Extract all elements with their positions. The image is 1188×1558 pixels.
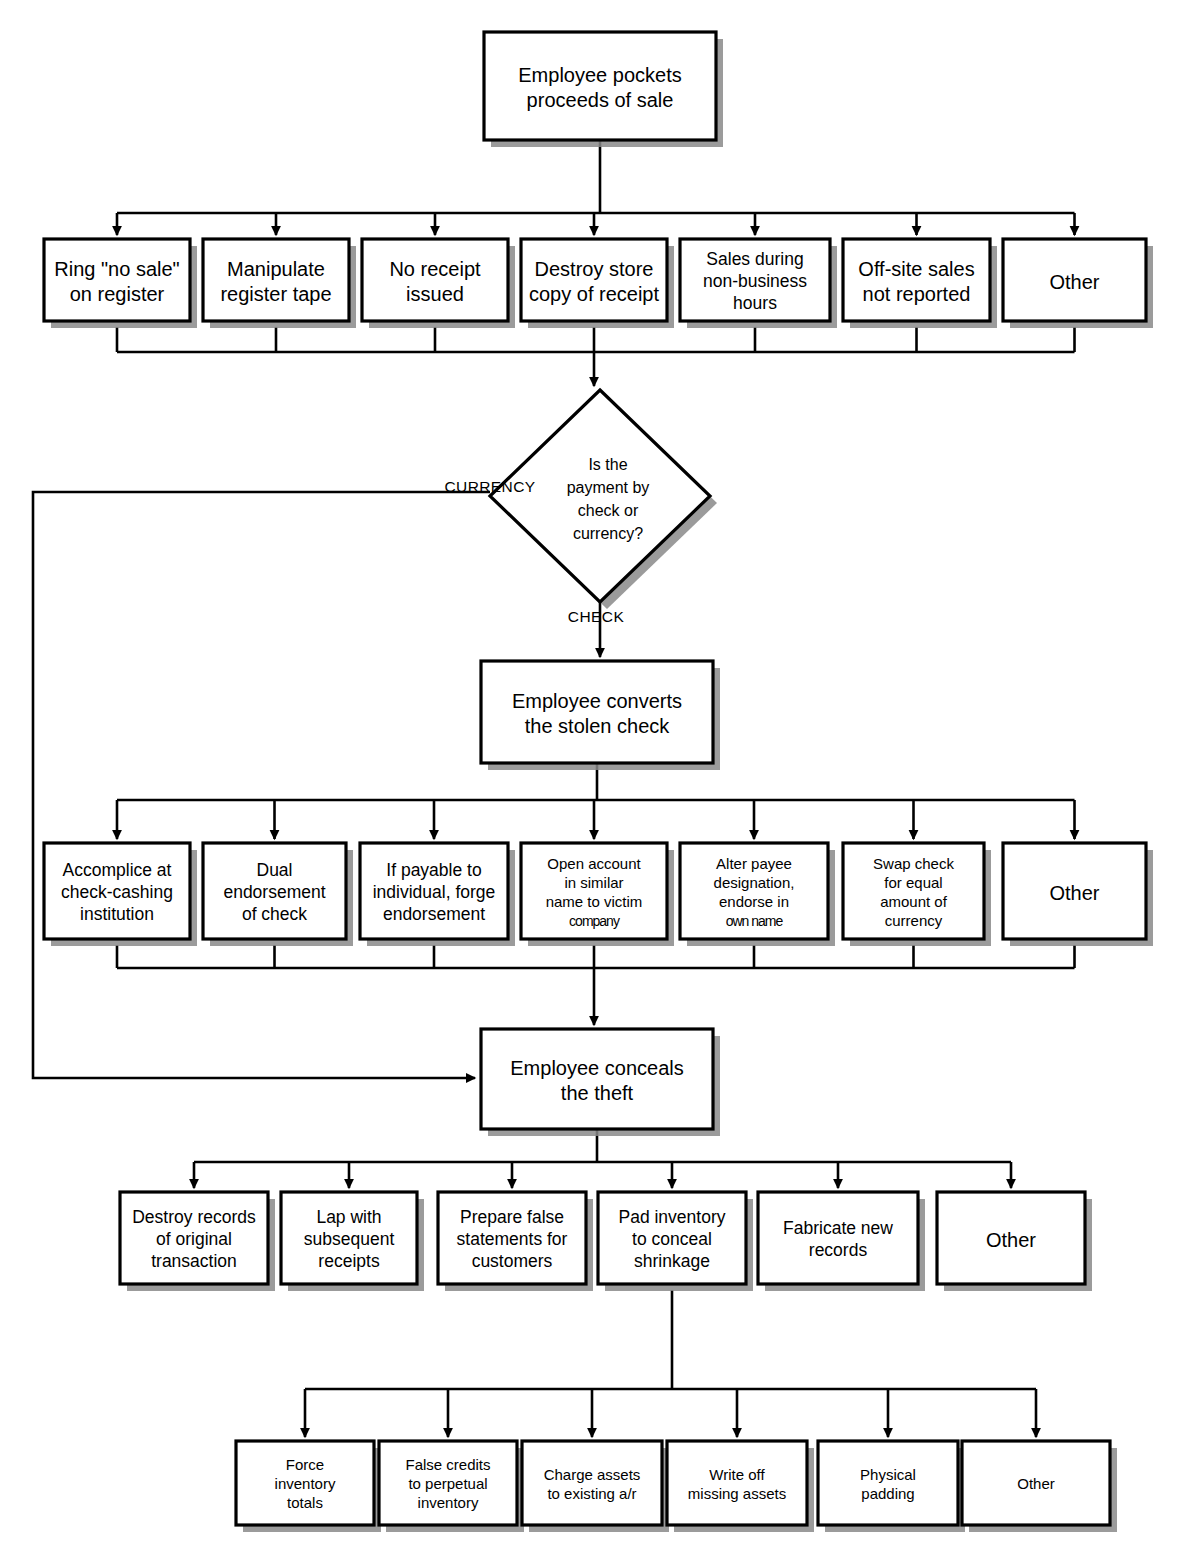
box-label-line: Dual bbox=[257, 860, 293, 880]
node-decision[interactable]: Is thepayment bycheck orcurrency? bbox=[490, 390, 717, 609]
node-convert[interactable]: Employee convertsthe stolen check bbox=[481, 661, 720, 770]
box-frame bbox=[44, 239, 190, 321]
edge-label-currency: CURRENCY bbox=[444, 478, 535, 495]
node-concealment-3[interactable]: Pad inventoryto concealshrinkage bbox=[598, 1192, 753, 1291]
node-conversion-4[interactable]: Alter payeedesignation,endorse inown nam… bbox=[680, 843, 835, 946]
box-label-line: copy of receipt bbox=[529, 283, 660, 305]
node-skimming-2[interactable]: No receiptissued bbox=[362, 239, 515, 328]
edge-label-check: CHECK bbox=[568, 608, 625, 625]
box-label-line: company bbox=[569, 913, 620, 929]
box-frame bbox=[667, 1441, 807, 1525]
node-padding-2[interactable]: Charge assetsto existing a/r bbox=[522, 1441, 669, 1532]
box-frame bbox=[843, 239, 990, 321]
box-label-line: No receipt bbox=[389, 258, 481, 280]
box-label-line: customers bbox=[472, 1251, 553, 1271]
diamond-label-line: check or bbox=[578, 502, 639, 519]
box-label-line: Open account bbox=[547, 855, 641, 872]
box-label-line: individual, forge bbox=[373, 882, 496, 902]
box-label-line: Sales during bbox=[706, 249, 803, 269]
node-skimming-1[interactable]: Manipulateregister tape bbox=[203, 239, 356, 328]
box-label-line: Employee converts bbox=[512, 690, 682, 712]
node-padding-3[interactable]: Write offmissing assets bbox=[667, 1441, 814, 1532]
box-label-line: the theft bbox=[561, 1082, 634, 1104]
box-frame bbox=[481, 1029, 713, 1129]
node-root[interactable]: Employee pocketsproceeds of sale bbox=[484, 32, 723, 147]
node-conversion-2[interactable]: If payable toindividual, forgeendorsemen… bbox=[360, 843, 515, 946]
box-label-line: inventory bbox=[275, 1475, 336, 1492]
box-label-line: to conceal bbox=[632, 1229, 712, 1249]
box-label-line: Lap with bbox=[316, 1207, 381, 1227]
node-layer: Employee pocketsproceeds of saleRing "no… bbox=[44, 32, 1153, 1532]
box-label-line: Swap check bbox=[873, 855, 954, 872]
box-label-line: Physical bbox=[860, 1466, 916, 1483]
box-label-line: subsequent bbox=[304, 1229, 395, 1249]
box-label-line: designation, bbox=[714, 874, 795, 891]
box-frame bbox=[362, 239, 508, 321]
box-frame bbox=[203, 239, 349, 321]
node-padding-0[interactable]: Forceinventorytotals bbox=[236, 1441, 381, 1532]
node-concealment-4[interactable]: Fabricate newrecords bbox=[758, 1192, 925, 1291]
box-label-line: Employee pockets bbox=[518, 64, 681, 86]
box-label-line: Accomplice at bbox=[63, 860, 172, 880]
node-padding-4[interactable]: Physicalpadding bbox=[818, 1441, 965, 1532]
box-label-line: register tape bbox=[220, 283, 331, 305]
box-label-line: to perpetual bbox=[408, 1475, 487, 1492]
box-label-line: Employee conceals bbox=[510, 1057, 683, 1079]
box-label-line: Pad inventory bbox=[618, 1207, 725, 1227]
box-label-line: totals bbox=[287, 1494, 323, 1511]
node-padding-1[interactable]: False creditsto perpetualinventory bbox=[379, 1441, 524, 1532]
box-label-line: transaction bbox=[151, 1251, 237, 1271]
node-padding-5[interactable]: Other bbox=[962, 1441, 1117, 1532]
box-label-line: Destroy store bbox=[535, 258, 654, 280]
box-label-line: to existing a/r bbox=[547, 1485, 636, 1502]
box-label-line: proceeds of sale bbox=[527, 89, 674, 111]
diamond-label-line: currency? bbox=[573, 525, 643, 542]
box-label-line: hours bbox=[733, 293, 777, 313]
diamond-frame bbox=[490, 390, 710, 602]
node-concealment-0[interactable]: Destroy recordsof originaltransaction bbox=[120, 1192, 275, 1291]
box-label-line: receipts bbox=[318, 1251, 380, 1271]
node-concealment-1[interactable]: Lap withsubsequentreceipts bbox=[281, 1192, 424, 1291]
node-conversion-1[interactable]: Dualendorsementof check bbox=[203, 843, 353, 946]
node-skimming-5[interactable]: Off-site salesnot reported bbox=[843, 239, 997, 328]
box-label-line: Other bbox=[1049, 882, 1099, 904]
node-skimming-3[interactable]: Destroy storecopy of receipt bbox=[521, 239, 674, 328]
box-label-line: False credits bbox=[405, 1456, 490, 1473]
connector-currency-bypass bbox=[33, 492, 490, 1078]
box-label-line: If payable to bbox=[386, 860, 481, 880]
box-label-line: Fabricate new bbox=[783, 1218, 893, 1238]
box-label-line: padding bbox=[861, 1485, 914, 1502]
box-label-line: in similar bbox=[564, 874, 623, 891]
node-conversion-6[interactable]: Other bbox=[1003, 843, 1153, 946]
node-concealment-2[interactable]: Prepare falsestatements forcustomers bbox=[438, 1192, 593, 1291]
box-label-line: Charge assets bbox=[544, 1466, 641, 1483]
box-label-line: Other bbox=[986, 1229, 1036, 1251]
box-label-line: amount of bbox=[880, 893, 948, 910]
node-skimming-0[interactable]: Ring "no sale"on register bbox=[44, 239, 197, 328]
box-label-line: for equal bbox=[884, 874, 942, 891]
node-conceal[interactable]: Employee concealsthe theft bbox=[481, 1029, 720, 1136]
node-skimming-4[interactable]: Sales duringnon-businesshours bbox=[680, 239, 837, 328]
box-label-line: currency bbox=[885, 912, 943, 929]
box-label-line: records bbox=[809, 1240, 868, 1260]
diamond-label-line: payment by bbox=[567, 479, 650, 496]
node-conversion-3[interactable]: Open accountin similarname to victimcomp… bbox=[521, 843, 674, 946]
node-concealment-5[interactable]: Other bbox=[937, 1192, 1092, 1291]
flowchart-svg: Employee pocketsproceeds of saleRing "no… bbox=[0, 0, 1188, 1558]
box-label-line: on register bbox=[70, 283, 165, 305]
box-label-line: missing assets bbox=[688, 1485, 786, 1502]
box-frame bbox=[522, 1441, 662, 1525]
node-conversion-5[interactable]: Swap checkfor equalamount ofcurrency bbox=[843, 843, 991, 946]
box-frame bbox=[481, 661, 713, 763]
box-label-line: Destroy records bbox=[132, 1207, 256, 1227]
box-label-line: Manipulate bbox=[227, 258, 325, 280]
box-label-line: of original bbox=[156, 1229, 232, 1249]
node-conversion-0[interactable]: Accomplice atcheck-cashinginstitution bbox=[44, 843, 197, 946]
box-label-line: the stolen check bbox=[525, 715, 671, 737]
box-label-line: shrinkage bbox=[634, 1251, 710, 1271]
node-skimming-6[interactable]: Other bbox=[1003, 239, 1153, 328]
box-label-line: Force bbox=[286, 1456, 324, 1473]
box-label-line: Other bbox=[1049, 271, 1099, 293]
diamond-label-line: Is the bbox=[588, 456, 627, 473]
box-label-line: name to victim bbox=[546, 893, 643, 910]
